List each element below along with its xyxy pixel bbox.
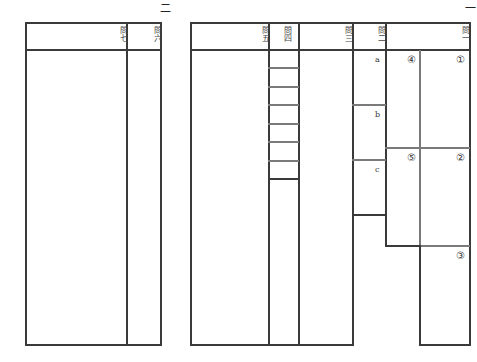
page-number-2: 二 bbox=[160, 3, 171, 14]
answer-box-q5[interactable] bbox=[192, 51, 268, 344]
bottom-q1 bbox=[419, 344, 471, 346]
q4-row-line-7 bbox=[268, 178, 299, 180]
header-q6: 問六 bbox=[148, 26, 160, 42]
bottom-q4 bbox=[268, 344, 300, 346]
answer-box-q1-5[interactable] bbox=[387, 149, 419, 245]
answer-box-q2-c[interactable] bbox=[354, 161, 385, 214]
q1-left-bottom bbox=[385, 245, 420, 247]
answer-box-q1-1[interactable] bbox=[421, 51, 469, 147]
border-top bbox=[25, 22, 162, 24]
header-q7: 問七 bbox=[114, 26, 126, 42]
header-q2: 問二 bbox=[372, 26, 384, 42]
answer-box-q4[interactable] bbox=[270, 51, 298, 178]
page-number-1: 一 bbox=[465, 3, 476, 14]
answer-box-q2-a[interactable] bbox=[354, 51, 385, 104]
bottom-q5 bbox=[190, 344, 270, 346]
border-right bbox=[469, 22, 471, 346]
answer-box-q1-2[interactable] bbox=[421, 149, 469, 245]
header-q1: 問一 bbox=[456, 26, 468, 42]
answer-box-q6[interactable] bbox=[128, 51, 160, 344]
answer-box-q1-4[interactable] bbox=[387, 51, 419, 147]
answer-box-q1-3[interactable] bbox=[421, 247, 469, 344]
header-q3: 問三 bbox=[339, 26, 351, 42]
header-q5: 問五 bbox=[256, 26, 268, 42]
q2-bottom bbox=[352, 214, 386, 216]
bottom-q3 bbox=[298, 344, 354, 346]
border-bottom bbox=[25, 344, 162, 346]
border-top bbox=[190, 22, 471, 24]
answer-box-q2-b[interactable] bbox=[354, 106, 385, 159]
header-q4: 問四 bbox=[278, 26, 290, 42]
answer-box-q3[interactable] bbox=[300, 51, 352, 344]
answer-box-q7[interactable] bbox=[27, 51, 126, 344]
border-right bbox=[160, 22, 162, 346]
